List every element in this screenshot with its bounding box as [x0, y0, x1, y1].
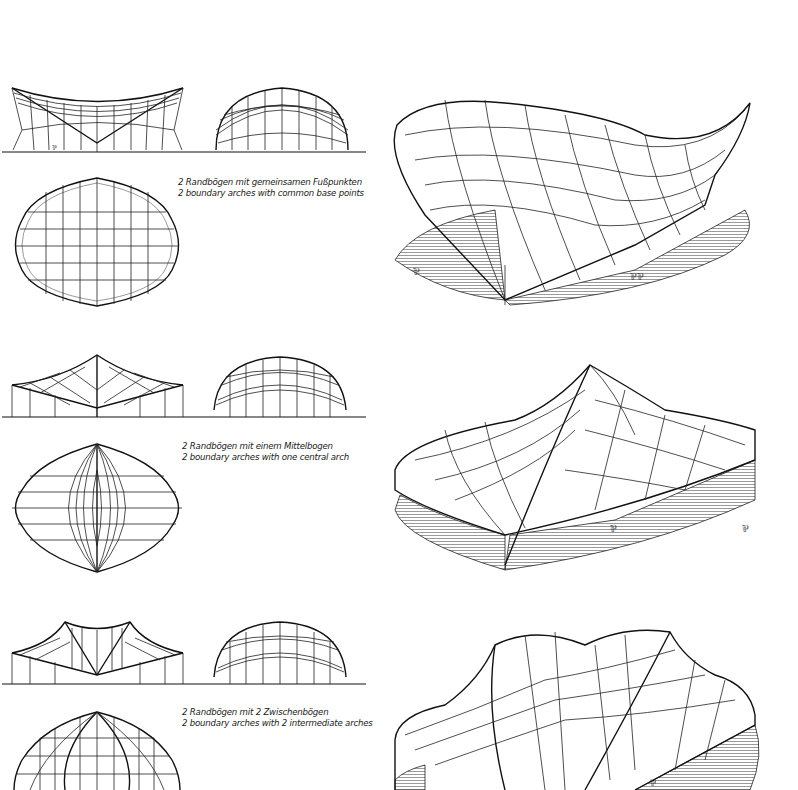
svg-text:⅌: ⅌: [413, 266, 420, 277]
svg-text:⅌: ⅌: [52, 144, 57, 152]
caption-english: 2 boundary arches with one central arch: [182, 452, 349, 463]
perspective-drawing-2: ⅌ ⅌: [385, 360, 798, 580]
front-elevation-drawing-2: [210, 345, 370, 425]
svg-text:⅌⅌: ⅌⅌: [630, 271, 644, 282]
caption-variant-2: 2 Randbögen mit einem Mittelbogen 2 boun…: [182, 441, 349, 463]
svg-text:⅌: ⅌: [610, 523, 617, 534]
caption-variant-1: 2 Randbögen mit gemeinsamen Fußpunkten 2…: [178, 177, 364, 199]
caption-variant-3: 2 Randbögen mit 2 Zwischenbögen 2 bounda…: [182, 707, 373, 729]
plan-drawing-2: [0, 430, 200, 580]
perspective-drawing-3: ⅌: [385, 620, 798, 790]
front-elevation-drawing-3: [210, 620, 370, 690]
caption-german: 2 Randbögen mit 2 Zwischenbögen: [182, 707, 373, 718]
front-elevation-drawing-1: [210, 75, 370, 165]
caption-german: 2 Randbögen mit gemeinsamen Fußpunkten: [178, 177, 364, 188]
svg-text:⅌: ⅌: [650, 778, 656, 788]
caption-english: 2 boundary arches with 2 intermediate ar…: [182, 718, 373, 729]
plan-drawing-3: [0, 710, 200, 790]
perspective-drawing-1: ⅌ ⅌⅌: [385, 95, 785, 315]
caption-english: 2 boundary arches with common base point…: [178, 188, 364, 199]
svg-text:⅌: ⅌: [742, 523, 749, 534]
caption-german: 2 Randbögen mit einem Mittelbogen: [182, 441, 349, 452]
plan-drawing-1: [0, 170, 200, 310]
